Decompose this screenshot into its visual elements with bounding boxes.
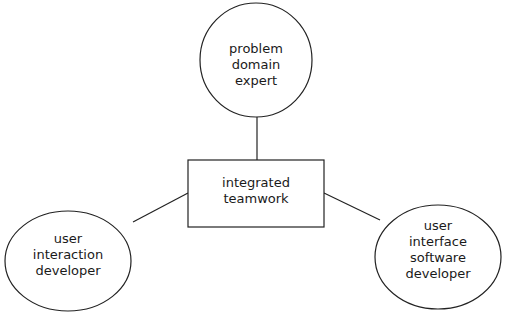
teamwork-diagram: problem domain expert integrated teamwor…: [0, 0, 507, 312]
node-label-line: domain: [232, 57, 281, 72]
node-problem-domain-expert: problem domain expert: [200, 3, 312, 117]
node-label-line: user: [54, 231, 83, 246]
node-label-line: interaction: [33, 247, 103, 262]
center-label-line: teamwork: [223, 191, 289, 206]
edge-center-left: [133, 193, 188, 222]
center-integrated-teamwork: integrated teamwork: [188, 160, 324, 227]
node-label-line: interface: [409, 234, 467, 249]
node-label-line: software: [410, 250, 466, 265]
node-user-interaction-developer: user interaction developer: [5, 211, 131, 311]
edge-center-right: [324, 193, 380, 220]
node-label-line: expert: [235, 73, 277, 88]
node-label-line: developer: [35, 263, 101, 278]
node-label-line: developer: [405, 266, 471, 281]
node-user-interface-software-developer: user interface software developer: [375, 205, 501, 309]
node-label-line: user: [424, 218, 453, 233]
node-label-line: problem: [229, 41, 283, 56]
center-label-line: integrated: [222, 175, 290, 190]
